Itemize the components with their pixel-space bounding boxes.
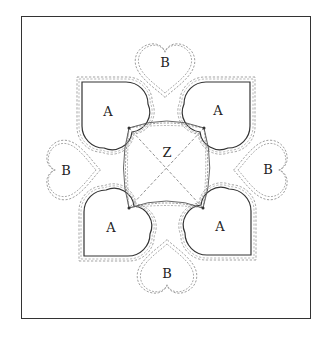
label-b-bottom: B bbox=[162, 266, 172, 281]
label-a-bottom-left: A bbox=[105, 220, 116, 235]
label-a-top-right: A bbox=[212, 103, 223, 118]
heart-b-right bbox=[234, 140, 288, 200]
heart-a-top-left bbox=[77, 77, 154, 154]
label-b-right: B bbox=[263, 162, 273, 177]
center-piece-z bbox=[124, 121, 210, 210]
heart-b-top bbox=[135, 44, 195, 98]
label-b-left: B bbox=[61, 163, 71, 178]
label-a-bottom-right: A bbox=[214, 219, 225, 234]
heart-a-bottom-left bbox=[79, 184, 156, 261]
label-a-top-left: A bbox=[102, 104, 113, 119]
label-b-top: B bbox=[160, 55, 170, 70]
quilt-diagram: A A A A B B B B Z bbox=[0, 0, 329, 338]
label-z-center: Z bbox=[162, 145, 171, 160]
